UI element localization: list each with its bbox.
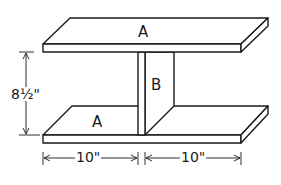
top-board-top-face <box>43 18 268 44</box>
top-board-front-edge <box>43 44 241 52</box>
top-board-label: A <box>138 25 148 40</box>
top-board <box>43 18 268 52</box>
width-dimensions <box>43 152 241 165</box>
bottom-board-front-edge <box>43 135 241 143</box>
divider-front-edge <box>138 52 145 135</box>
bottom-board-label: A <box>92 115 102 130</box>
shelf-diagram: A B A 8½" 10" 10" <box>0 0 281 185</box>
right-width-label: 10" <box>180 150 206 164</box>
left-width-label: 10" <box>75 150 101 164</box>
divider-label: B <box>151 78 161 93</box>
height-label: 8½" <box>10 87 41 101</box>
